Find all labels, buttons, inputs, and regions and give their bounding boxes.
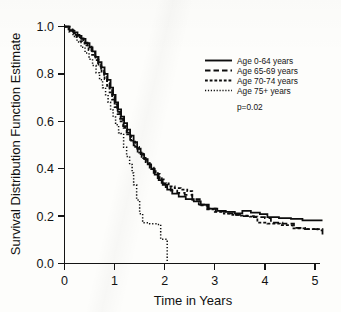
y-tick-label-0: 0.0: [37, 257, 54, 271]
curve-age-75-plus: [65, 27, 168, 264]
legend: Age 0-64 years Age 65-69 years Age 70-74…: [205, 56, 298, 96]
pvalue-annotation: p=0.02: [237, 102, 263, 112]
y-tick-label-1: 0.2: [37, 210, 54, 224]
x-axis-title: Time in Years: [154, 293, 233, 308]
legend-label-age-0-64: Age 0-64 years: [237, 56, 293, 66]
x-tick-label-0: 0: [61, 274, 68, 288]
x-tick-label-4: 4: [261, 274, 268, 288]
y-tick-label-3: 0.6: [37, 115, 54, 129]
legend-label-age-75-plus: Age 75+ years: [237, 86, 291, 96]
x-axis: 0 1 2 3 4 5: [61, 264, 319, 289]
survival-curve-figure: 0.0 0.2 0.4 0.6 0.8 1.0 0 1 2 3 4 5 Time…: [0, 0, 341, 312]
x-tick-label-1: 1: [111, 274, 118, 288]
x-tick-label-5: 5: [312, 274, 319, 288]
x-tick-label-2: 2: [161, 274, 168, 288]
x-tick-label-3: 3: [211, 274, 218, 288]
y-tick-label-2: 0.4: [37, 162, 54, 176]
kaplan-meier-plot: 0.0 0.2 0.4 0.6 0.8 1.0 0 1 2 3 4 5 Time…: [0, 0, 341, 312]
legend-label-age-65-69: Age 65-69 years: [237, 66, 298, 76]
legend-label-age-70-74: Age 70-74 years: [237, 76, 298, 86]
y-axis-title: Survival Distribution Function Estimate: [8, 33, 23, 256]
y-axis: 0.0 0.2 0.4 0.6 0.8 1.0: [37, 20, 65, 271]
y-tick-label-4: 0.8: [37, 67, 54, 81]
y-tick-label-5: 1.0: [37, 20, 54, 34]
